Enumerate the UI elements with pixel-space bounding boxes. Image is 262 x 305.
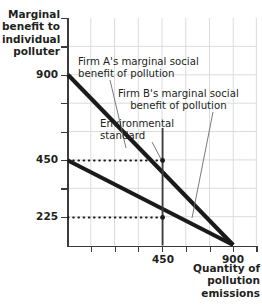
x-axis-title-line-1: Quantity of: [168, 262, 260, 274]
environmental-standard-leader-line: [152, 142, 162, 160]
y-axis-title-line-3: individual: [2, 33, 60, 45]
firm-b-leader-line: [192, 112, 213, 218]
y-axis-title: Marginal benefit to individual polluter: [2, 8, 60, 58]
y-tick-label-225: 225: [12, 210, 58, 222]
annotation-env-line-2: standard: [100, 130, 174, 142]
firm-b-curve: [68, 161, 233, 246]
annotation-firm-a-line-1: Firm A's marginal social: [78, 56, 199, 68]
annotation-env-line-1: Environmental: [100, 118, 174, 130]
annotation-firm-b: Firm B's marginal social benefit of poll…: [118, 88, 239, 112]
y-tick-label-450: 450: [12, 153, 58, 165]
pollution-marginal-benefit-chart: 900 450 225 450 900 Marginal benefit to …: [0, 0, 262, 305]
annotation-firm-b-line-2: benefit of pollution: [118, 100, 239, 112]
marker-firm-a-at-standard: [160, 158, 165, 163]
x-axis-title: Quantity of pollution emissions: [168, 262, 260, 299]
y-tick-label-900: 900: [12, 68, 58, 80]
annotation-environmental-standard: Environmental standard: [100, 118, 174, 142]
x-axis-title-line-2: pollution: [168, 274, 260, 286]
y-axis-title-line-4: polluter: [2, 45, 60, 57]
annotation-firm-b-line-1: Firm B's marginal social: [118, 88, 239, 100]
y-axis-title-line-2: benefit to: [2, 20, 60, 32]
annotation-firm-a-line-2: benefit of pollution: [78, 68, 199, 80]
annotation-firm-a: Firm A's marginal social benefit of poll…: [78, 56, 199, 80]
x-axis-title-line-3: emissions: [168, 287, 260, 299]
y-axis-title-line-1: Marginal: [2, 8, 60, 20]
marker-firm-b-at-standard: [160, 215, 165, 220]
